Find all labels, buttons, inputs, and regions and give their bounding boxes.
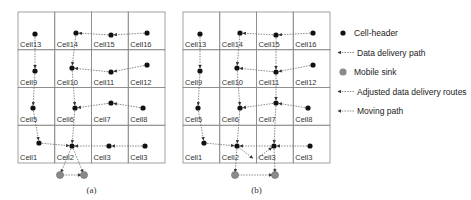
cell-header-node [32, 31, 37, 36]
cell-label: Cell15 [94, 40, 115, 49]
cell-header-node [310, 30, 315, 35]
mobile-sink-node [56, 171, 63, 178]
panel-b: Cell13Cell14Cell15Cell16Cell9Cell10Cell1… [183, 12, 330, 195]
cell-label: Cell1 [185, 153, 202, 162]
legend-label: Adjusted data delivery routes [357, 87, 467, 97]
cell-header-node [140, 105, 145, 110]
cell-header-node [73, 30, 78, 35]
cell-label: Cell15 [259, 40, 280, 49]
cell-header-node [69, 143, 74, 148]
delivery-path [207, 143, 234, 145]
cell-header-node [237, 30, 242, 35]
cell-header-node [234, 65, 239, 70]
mobile-sink-node [231, 171, 238, 178]
cell-label: Cell16 [130, 40, 151, 49]
panel-a: Cell13Cell14Cell15Cell16Cell9Cell10Cell1… [18, 12, 165, 195]
legend-label: Cell-header [354, 28, 398, 38]
cell-header-node [108, 100, 113, 105]
cell-label: Cell16 [295, 40, 316, 49]
cell-grid-diagram: Cell13Cell14Cell15Cell16Cell9Cell10Cell1… [0, 0, 471, 200]
delivery-path [114, 33, 144, 35]
cell-header-node [144, 62, 149, 67]
cell-header-node [234, 143, 239, 148]
cell-header-node [144, 30, 149, 35]
delivery-path [79, 33, 108, 35]
cell-label: Cell8 [295, 115, 312, 124]
cell-header-node [273, 69, 278, 74]
cell-label: Cell7 [259, 115, 276, 124]
mobile-sink-node [80, 171, 87, 178]
cell-label: Cell13 [185, 40, 206, 49]
legend: Cell-headerData delivery pathMobile sink… [338, 28, 467, 116]
delivery-path [239, 148, 252, 158]
legend-sink-icon [339, 68, 346, 75]
delivery-path [73, 149, 83, 172]
cell-header-node [237, 105, 242, 110]
legend-label: Data delivery path [357, 48, 426, 58]
cell-label: Cell6 [57, 115, 74, 124]
cell-label: Cell8 [130, 115, 147, 124]
cell-header-node [72, 105, 77, 110]
cell-label: Cell10 [57, 78, 78, 87]
cell-label: Cell3 [259, 153, 276, 162]
cell-label: Cell12 [295, 78, 316, 87]
cell-header-node [271, 143, 276, 148]
cell-label: Cell14 [222, 40, 243, 49]
delivery-path [243, 33, 273, 35]
cell-label: Cell13 [20, 40, 41, 49]
delivery-path [279, 33, 310, 35]
cell-header-node [195, 105, 200, 110]
panel-caption: (b) [251, 185, 262, 195]
cell-header-node [310, 62, 315, 67]
cell-label: Cell6 [222, 115, 239, 124]
cell-label: Cell3 [295, 153, 312, 162]
cell-header-node [106, 143, 111, 148]
cell-label: Cell3 [94, 153, 111, 162]
delivery-path [243, 103, 273, 107]
cell-header-node [307, 143, 312, 148]
delivery-path [72, 71, 75, 105]
mobile-sink-node [271, 171, 278, 178]
cell-header-node [30, 105, 35, 110]
cell-header-node [108, 32, 113, 37]
cell-label: Cell11 [94, 78, 115, 87]
cell-label: Cell10 [222, 78, 243, 87]
delivery-path [274, 106, 276, 143]
delivery-path [114, 66, 144, 72]
delivery-path [279, 103, 305, 107]
cell-header-node [305, 105, 310, 110]
cell-header-node [197, 68, 202, 73]
delivery-path [279, 66, 310, 72]
cell-header-node [201, 140, 206, 145]
cell-header-node [273, 32, 278, 37]
legend-header-icon [340, 30, 345, 35]
cell-header-node [273, 100, 278, 105]
cell-label: Cell1 [20, 153, 37, 162]
legend-label: Moving path [357, 106, 404, 116]
cell-label: Cell3 [130, 153, 147, 162]
cell-header-node [69, 65, 74, 70]
cell-header-node [32, 68, 37, 73]
cell-label: Cell12 [130, 78, 151, 87]
cell-header-node [142, 143, 147, 148]
cell-header-node [36, 140, 41, 145]
delivery-path [78, 103, 108, 107]
panel-caption: (a) [87, 185, 97, 195]
delivery-path [237, 71, 240, 105]
delivery-path [42, 143, 69, 145]
cell-label: Cell2 [57, 153, 74, 162]
delivery-path [114, 103, 140, 107]
legend-label: Mobile sink [354, 67, 397, 77]
cell-header-node [197, 31, 202, 36]
cell-header-node [108, 69, 113, 74]
cell-label: Cell7 [94, 115, 111, 124]
